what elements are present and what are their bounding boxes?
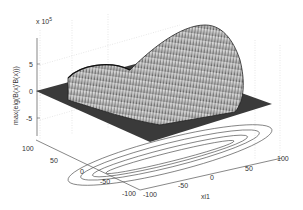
z-tick: -5 [26,115,32,122]
x-tick: 0 [210,174,214,181]
z-multiplier: x 105 [36,16,52,25]
x-tick: 100 [277,155,289,162]
z-tick: 5 [29,61,33,68]
x-tick: -50 [178,182,188,189]
x-tick: 50 [245,165,253,172]
x-tick: -100 [143,191,157,198]
y-tick: 0 [80,168,84,175]
x-axis-label: xi1 [201,193,210,200]
y-tick: -100 [122,190,136,197]
z-tick: 0 [29,88,33,95]
z-axis-label: max(eig(B(x)'B(x))) [12,66,19,125]
y-tick: -50 [100,178,110,185]
surface-plot [0,0,303,210]
y-tick: 50 [50,157,58,164]
y-tick: 100 [22,145,34,152]
